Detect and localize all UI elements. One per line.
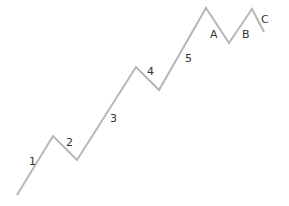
- wave-label-1: 1: [29, 155, 36, 168]
- wave-polyline: [17, 8, 264, 195]
- wave-label-2: 2: [66, 136, 73, 149]
- wave-label-b: B: [242, 28, 250, 41]
- wave-label-5: 5: [185, 52, 192, 65]
- wave-label-a: A: [210, 28, 218, 41]
- wave-label-3: 3: [110, 112, 117, 125]
- elliott-wave-diagram: 1 2 3 4 5 A B C: [0, 0, 289, 206]
- wave-label-c: C: [261, 13, 269, 26]
- wave-label-4: 4: [147, 65, 154, 78]
